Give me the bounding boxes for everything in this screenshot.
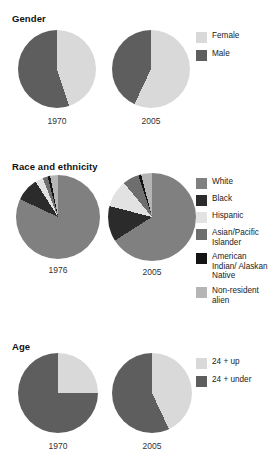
legend-swatch-icon xyxy=(196,358,207,369)
legend-item: Male xyxy=(196,49,239,61)
legend-item: Black xyxy=(196,194,273,206)
legend-label: Male xyxy=(212,49,230,59)
legend-label: White xyxy=(212,177,233,187)
legend-item: Female xyxy=(196,31,239,43)
gender-section-title: Gender xyxy=(12,13,46,24)
pie-year-label: 2005 xyxy=(112,441,192,451)
legend-swatch-icon xyxy=(196,32,207,43)
legend-swatch-icon xyxy=(196,229,207,240)
legend-label: Female xyxy=(212,31,239,41)
pie-slices xyxy=(112,353,192,433)
age-section-title: Age xyxy=(12,341,30,352)
legend-item: White xyxy=(196,177,273,189)
pie-year-label: 1970 xyxy=(18,116,96,126)
legend-item: American Indian/ Alaskan Native xyxy=(196,252,273,281)
legend-label: American Indian/ Alaskan Native xyxy=(212,252,273,281)
pie-slices xyxy=(108,173,196,261)
race-ethnicity-section: Race and ethnicity 1976 2005 White Black… xyxy=(0,155,273,335)
legend-swatch-icon xyxy=(196,287,207,298)
legend-item: Asian/Pacific Islander xyxy=(196,228,273,247)
race-legend: White Black Hispanic Asian/Pacific Islan… xyxy=(196,177,273,310)
legend-item: Non-resident alien xyxy=(196,286,273,305)
race-pie-1976: 1976 xyxy=(16,175,100,259)
legend-label: 24 + up xyxy=(212,357,240,367)
legend-swatch-icon xyxy=(196,376,207,387)
race-pie-2005: 2005 xyxy=(108,173,196,261)
pie-year-label: 2005 xyxy=(112,116,190,126)
gender-pie-2005: 2005 xyxy=(112,30,190,108)
legend-item: 24 + under xyxy=(196,375,251,387)
legend-item: 24 + up xyxy=(196,357,251,369)
pie-slices xyxy=(18,30,96,108)
legend-label: Hispanic xyxy=(212,211,243,221)
age-legend: 24 + up 24 + under xyxy=(196,357,251,393)
pie-year-label: 1970 xyxy=(18,441,98,451)
pie-year-label: 2005 xyxy=(108,267,196,277)
legend-item: Hispanic xyxy=(196,211,273,223)
pie-slices xyxy=(16,175,100,259)
pie-slices xyxy=(112,30,190,108)
legend-swatch-icon xyxy=(196,50,207,61)
legend-swatch-icon xyxy=(196,253,207,264)
legend-swatch-icon xyxy=(196,195,207,206)
pie-slices xyxy=(18,353,98,433)
legend-label: Non-resident alien xyxy=(212,286,273,305)
legend-label: Black xyxy=(212,194,232,204)
gender-section: Gender 1970 2005 Female Male xyxy=(0,0,273,155)
gender-legend: Female Male xyxy=(196,31,239,67)
legend-label: 24 + under xyxy=(212,375,251,385)
age-pie-1970: 1970 xyxy=(18,353,98,433)
gender-pie-1970: 1970 xyxy=(18,30,96,108)
legend-swatch-icon xyxy=(196,212,207,223)
age-pie-2005: 2005 xyxy=(112,353,192,433)
race-section-title: Race and ethnicity xyxy=(12,161,98,172)
legend-label: Asian/Pacific Islander xyxy=(212,228,273,247)
legend-swatch-icon xyxy=(196,178,207,189)
age-section: Age 1970 2005 24 + up 24 + under xyxy=(0,335,273,462)
pie-year-label: 1976 xyxy=(16,265,100,275)
